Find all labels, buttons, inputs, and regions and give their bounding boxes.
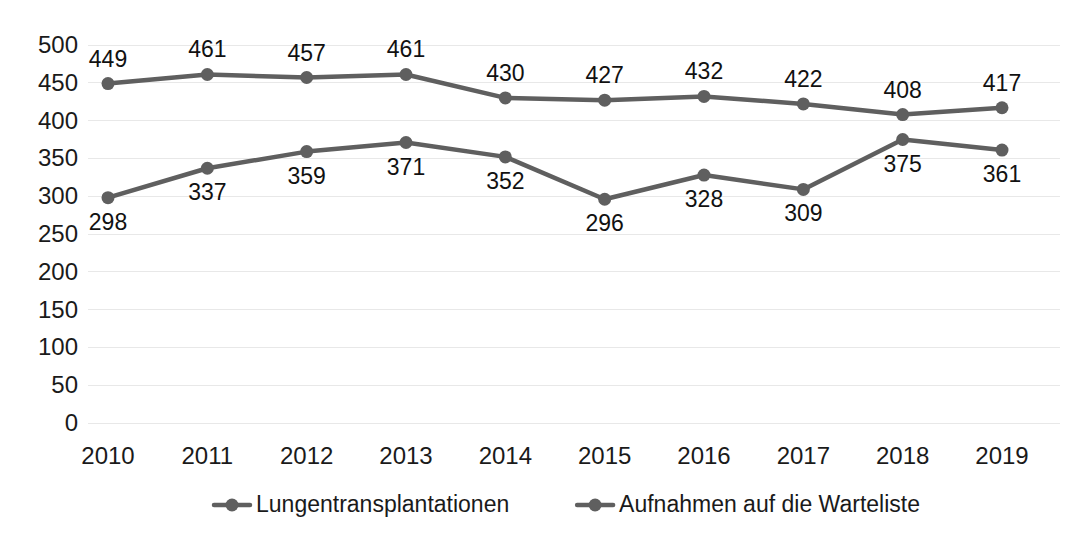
y-axis-tick-label: 300 <box>38 182 78 209</box>
data-point-label: 361 <box>983 161 1021 187</box>
y-axis-tick-label: 350 <box>38 144 78 171</box>
y-axis-tick-label: 200 <box>38 258 78 285</box>
data-labels-group: 4494614574614304274324224084172983373593… <box>89 36 1021 236</box>
x-axis-tick-label: 2012 <box>280 442 333 469</box>
data-point-marker <box>598 94 611 107</box>
data-point-marker <box>300 71 313 84</box>
data-point-label: 408 <box>883 77 921 103</box>
data-point-marker <box>896 108 909 121</box>
data-point-marker <box>896 133 909 146</box>
x-axis-tick-label: 2019 <box>975 442 1028 469</box>
data-series-group <box>102 68 1009 206</box>
data-point-label: 461 <box>387 36 425 62</box>
data-point-marker <box>797 183 810 196</box>
data-point-label: 309 <box>784 200 822 226</box>
data-point-label: 298 <box>89 209 127 235</box>
y-axis-tick-label: 500 <box>38 31 78 58</box>
legend-item[interactable]: Lungentransplantationen <box>214 491 509 517</box>
data-point-marker <box>499 91 512 104</box>
line-chart: 050100150200250300350400450500 201020112… <box>0 0 1075 545</box>
data-point-label: 296 <box>585 210 623 236</box>
data-point-label: 417 <box>983 70 1021 96</box>
data-point-marker <box>300 145 313 158</box>
series-line <box>108 140 1002 200</box>
series-line <box>108 74 1002 114</box>
data-point-marker <box>797 97 810 110</box>
data-point-label: 449 <box>89 46 127 72</box>
y-axis-tick-label: 250 <box>38 220 78 247</box>
data-point-marker <box>102 77 115 90</box>
data-point-label: 461 <box>188 36 226 62</box>
data-point-marker <box>996 101 1009 114</box>
data-point-label: 422 <box>784 66 822 92</box>
y-axis-tick-labels: 050100150200250300350400450500 <box>38 31 78 436</box>
legend-marker-dot <box>226 499 239 512</box>
data-point-label: 359 <box>287 163 325 189</box>
chart-canvas: 050100150200250300350400450500 201020112… <box>0 0 1075 545</box>
data-series <box>102 133 1009 206</box>
y-axis-tick-label: 450 <box>38 69 78 96</box>
data-point-marker <box>698 90 711 103</box>
data-point-marker <box>598 193 611 206</box>
data-point-label: 430 <box>486 60 524 86</box>
legend-item-label: Aufnahmen auf die Warteliste <box>619 491 920 517</box>
x-axis-tick-label: 2015 <box>578 442 631 469</box>
chart-legend: LungentransplantationenAufnahmen auf die… <box>214 491 920 517</box>
data-point-label: 375 <box>883 151 921 177</box>
legend-item[interactable]: Aufnahmen auf die Warteliste <box>577 491 920 517</box>
y-axis-tick-label: 100 <box>38 333 78 360</box>
data-point-marker <box>499 150 512 163</box>
y-axis-tick-label: 400 <box>38 107 78 134</box>
x-axis-tick-label: 2011 <box>182 442 234 469</box>
y-axis-tick-label: 50 <box>51 371 78 398</box>
data-point-marker <box>201 68 214 81</box>
x-axis-tick-label: 2014 <box>479 442 532 469</box>
data-point-marker <box>400 136 413 149</box>
data-point-label: 328 <box>685 186 723 212</box>
x-axis-tick-label: 2018 <box>876 442 929 469</box>
legend-marker-dot <box>589 499 602 512</box>
data-point-label: 432 <box>685 58 723 84</box>
x-axis-tick-label: 2016 <box>677 442 730 469</box>
data-point-marker <box>698 169 711 182</box>
data-series <box>102 68 1009 121</box>
data-point-label: 457 <box>287 40 325 66</box>
x-axis-tick-label: 2010 <box>81 442 134 469</box>
x-axis-tick-labels: 2010201120122013201420152016201720182019 <box>81 442 1028 469</box>
data-point-marker <box>102 191 115 204</box>
data-point-label: 427 <box>585 62 623 88</box>
data-point-marker <box>201 162 214 175</box>
data-point-label: 371 <box>387 154 425 180</box>
data-point-marker <box>996 144 1009 157</box>
data-point-label: 352 <box>486 168 524 194</box>
legend-item-label: Lungentransplantationen <box>256 491 509 517</box>
y-axis-tick-label: 0 <box>65 409 78 436</box>
data-point-marker <box>400 68 413 81</box>
x-axis-tick-label: 2013 <box>379 442 432 469</box>
data-point-label: 337 <box>188 179 226 205</box>
x-axis-tick-label: 2017 <box>777 442 830 469</box>
y-axis-tick-label: 150 <box>38 296 78 323</box>
